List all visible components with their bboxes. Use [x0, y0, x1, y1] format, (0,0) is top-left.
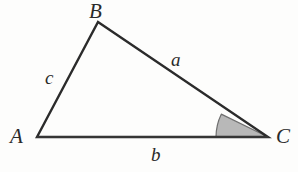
vertex-label-a: A — [10, 126, 23, 147]
side-label-a: a — [171, 50, 181, 69]
side-label-c: c — [45, 68, 53, 87]
vertex-label-c: C — [276, 126, 290, 147]
side-label-b: b — [151, 145, 161, 164]
vertex-label-b: B — [89, 1, 102, 22]
angle-marker-c-sector — [216, 114, 268, 137]
triangle-diagram: A B C a b c — [0, 0, 298, 172]
